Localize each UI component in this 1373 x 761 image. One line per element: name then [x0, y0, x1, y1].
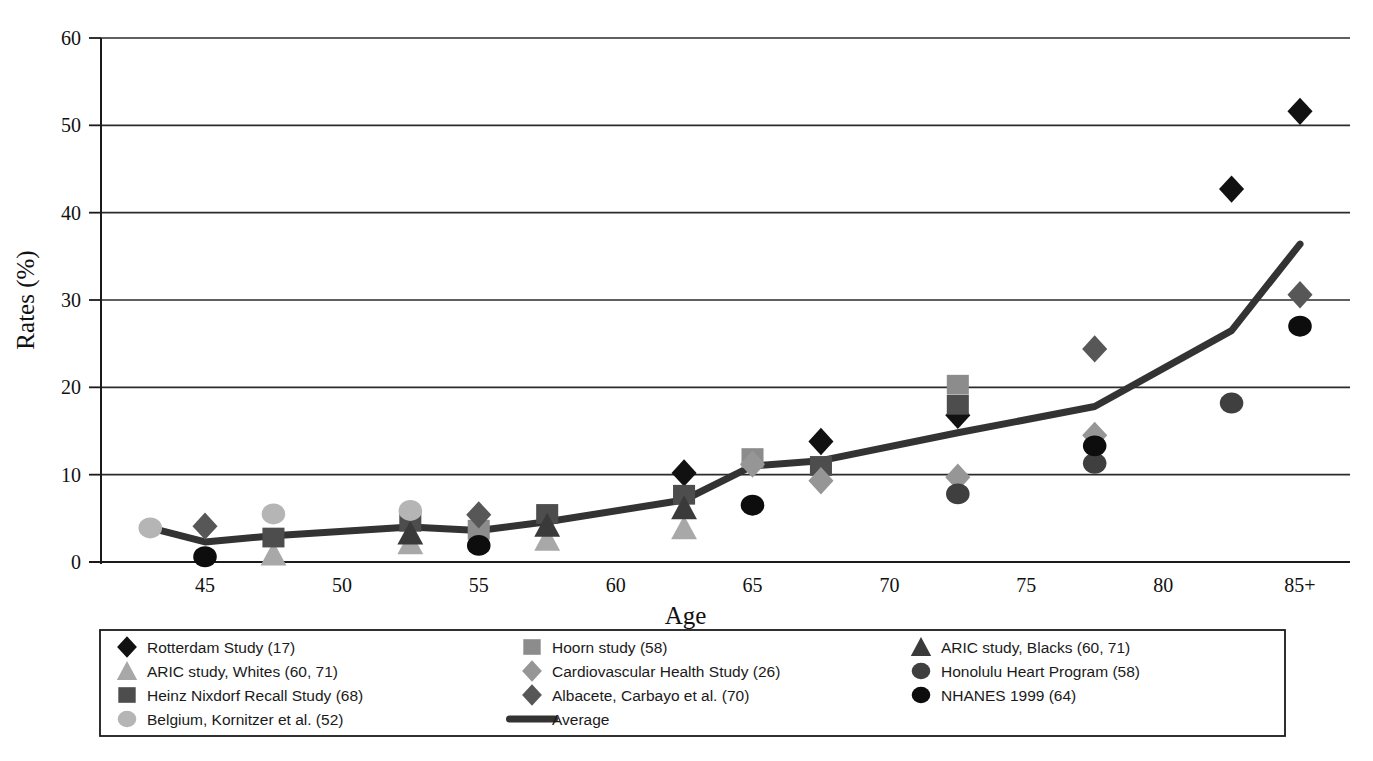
legend-item-label: ARIC study, Whites (60, 71) [147, 663, 338, 680]
data-point-circle-marker [946, 483, 970, 504]
x-axis-title: Age [665, 602, 707, 629]
legend-item[interactable]: ARIC study, Blacks (60, 71) [911, 637, 1130, 656]
data-point-circle-marker [399, 500, 423, 521]
y-tick-label: 60 [61, 27, 81, 49]
legend-item[interactable]: Heinz Nixdorf Recall Study (68) [118, 687, 363, 704]
data-point-circle-marker [262, 504, 286, 525]
y-tick-label: 50 [61, 114, 81, 136]
legend-item-label: Heinz Nixdorf Recall Study (68) [147, 687, 363, 704]
data-point-circle-marker [193, 546, 217, 567]
data-point-circle-marker [1220, 393, 1244, 414]
legend-item[interactable]: Honolulu Heart Program (58) [912, 663, 1140, 680]
legend-item-label: ARIC study, Blacks (60, 71) [941, 639, 1130, 656]
legend-square-icon [523, 639, 540, 655]
y-tick-label: 0 [71, 551, 81, 573]
data-point-circle-marker [138, 517, 162, 538]
legend-item-label: Average [552, 711, 609, 728]
data-point-circle-marker [1288, 316, 1312, 337]
legend-item[interactable]: Albacete, Carbayo et al. (70) [522, 684, 749, 706]
legend-item-label: NHANES 1999 (64) [941, 687, 1076, 704]
legend-item[interactable]: ARIC study, Whites (60, 71) [117, 661, 338, 680]
y-tick-label: 40 [61, 202, 81, 224]
data-point-circle-marker [467, 535, 491, 556]
x-tick-label: 70 [879, 574, 899, 596]
x-tick-label: 45 [195, 574, 215, 596]
x-tick-label: 55 [469, 574, 489, 596]
x-tick-label: 80 [1153, 574, 1173, 596]
legend-item-label: Belgium, Kornitzer et al. (52) [147, 711, 343, 728]
legend-item[interactable]: Belgium, Kornitzer et al. (52) [118, 711, 344, 728]
data-point-square-marker [947, 395, 969, 415]
legend-item-label: Rotterdam Study (17) [147, 639, 295, 656]
x-tick-label: 65 [743, 574, 763, 596]
data-point-circle-marker [741, 495, 765, 516]
rates-by-age-scatter-chart: 0102030405060455055606570758085+ AgeRate… [0, 0, 1373, 761]
legend-circle-icon [912, 663, 931, 680]
y-axis-title: Rates (%) [12, 250, 40, 349]
legend-item-label: Honolulu Heart Program (58) [941, 663, 1140, 680]
x-tick-label: 85+ [1284, 574, 1315, 596]
x-tick-label: 60 [606, 574, 626, 596]
legend-item[interactable]: Cardiovascular Health Study (26) [522, 660, 780, 682]
legend-item-label: Hoorn study (58) [552, 639, 667, 656]
data-point-circle-marker [1083, 435, 1107, 456]
legend-square-icon [118, 687, 135, 703]
legend-circle-icon [118, 711, 137, 728]
y-tick-label: 20 [61, 376, 81, 398]
data-point-square-marker [262, 528, 284, 548]
legend-circle-icon [912, 687, 931, 704]
y-tick-label: 30 [61, 289, 81, 311]
y-tick-label: 10 [61, 464, 81, 486]
x-tick-label: 75 [1016, 574, 1036, 596]
x-tick-label: 50 [332, 574, 352, 596]
chart-figure: 0102030405060455055606570758085+ AgeRate… [0, 0, 1373, 761]
legend-item-label: Albacete, Carbayo et al. (70) [552, 687, 749, 704]
legend-item-label: Cardiovascular Health Study (26) [552, 663, 780, 680]
data-point-square-marker [947, 375, 969, 395]
